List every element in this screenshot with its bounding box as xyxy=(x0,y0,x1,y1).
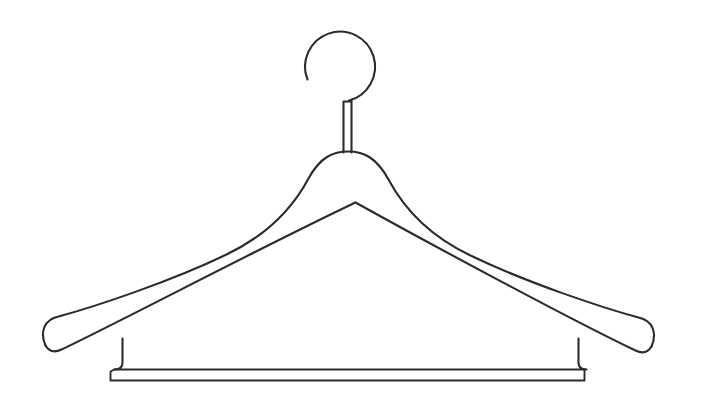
drawing-canvas: Clothes Hanger Line Drawing Outline draw… xyxy=(0,0,704,412)
page-background xyxy=(0,0,704,412)
clothes-hanger-figure xyxy=(0,0,704,412)
